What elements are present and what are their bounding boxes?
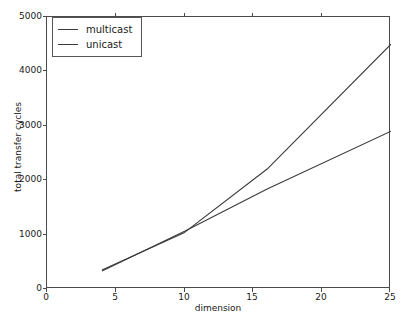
legend-line-icon-unicast — [58, 44, 78, 45]
x-tick-label-25: 25 — [384, 293, 395, 302]
legend-entry-unicast: unicast — [58, 37, 132, 52]
x-tick-label-5: 5 — [112, 293, 118, 302]
x-tick-label-0: 0 — [43, 293, 49, 302]
x-axis-title: dimension — [46, 303, 390, 313]
y-tick-label-5000: 5000 — [2, 12, 42, 21]
legend-line-icon-multicast — [58, 29, 78, 30]
y-tick-label-0: 0 — [2, 284, 42, 293]
x-tick-label-20: 20 — [315, 293, 326, 302]
x-tick-label-10: 10 — [178, 293, 189, 302]
series-line-multicast — [102, 44, 391, 270]
y-axis-title: total transfer cycles — [13, 77, 23, 217]
y-tick-label-1000: 1000 — [2, 229, 42, 238]
x-tick-label-15: 15 — [246, 293, 257, 302]
legend-entry-multicast: multicast — [58, 22, 132, 37]
figure-canvas: 5000 4000 3000 2000 1000 0 0 5 10 15 20 … — [0, 0, 404, 322]
series-line-unicast — [102, 131, 391, 271]
legend-box: multicast unicast — [52, 17, 142, 57]
legend-label-unicast: unicast — [86, 40, 122, 50]
y-tick-label-4000: 4000 — [2, 66, 42, 75]
legend-label-multicast: multicast — [86, 25, 132, 35]
series-canvas — [47, 17, 391, 289]
